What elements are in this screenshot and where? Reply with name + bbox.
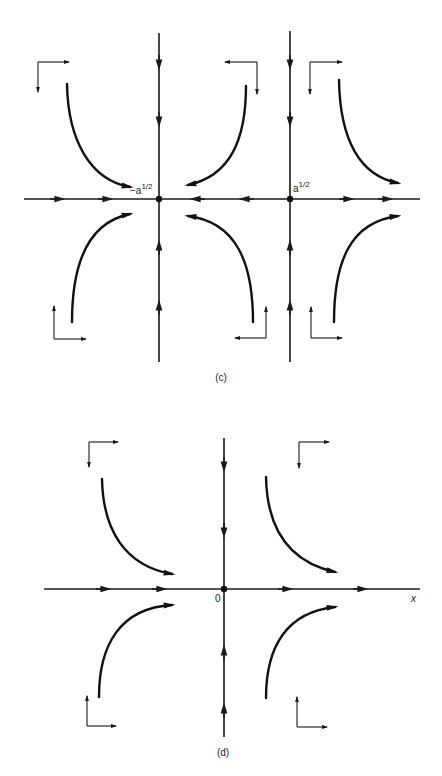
trajectory xyxy=(266,607,335,698)
direction-indicator xyxy=(297,697,327,727)
direction-indicator xyxy=(87,696,116,726)
trajectory xyxy=(188,216,253,322)
trajectory xyxy=(67,84,130,187)
fixed-point-origin xyxy=(221,586,227,592)
trajectory xyxy=(334,216,398,322)
label-neg-sqrt-a: −a1/2 xyxy=(130,182,153,196)
direction-indicator xyxy=(235,307,266,338)
trajectory xyxy=(266,477,335,572)
phase-portrait-figure: −a1/2 a1/2 xyxy=(0,0,442,776)
fixed-point-neg-sqrt-a xyxy=(156,196,162,202)
label-pos-sqrt-a: a1/2 xyxy=(293,180,310,194)
direction-indicator xyxy=(310,62,342,94)
direction-indicator xyxy=(54,306,86,339)
trajectory xyxy=(72,214,130,322)
label-origin: 0 xyxy=(215,593,221,604)
direction-indicator xyxy=(311,307,342,338)
trajectory xyxy=(188,86,246,185)
panel-c: −a1/2 a1/2 xyxy=(24,31,420,383)
fixed-point-pos-sqrt-a xyxy=(287,196,293,202)
trajectories-d xyxy=(99,477,335,698)
panel-d: 0 x (d) xyxy=(44,438,420,758)
panel-caption-d: (d) xyxy=(217,747,229,758)
x-axis-label: x xyxy=(410,593,417,604)
direction-indicator xyxy=(38,62,69,92)
trajectory xyxy=(339,80,398,183)
y-axis-flow-arrows-c xyxy=(159,55,290,315)
direction-indicator xyxy=(299,442,329,468)
direction-indicator xyxy=(225,62,257,94)
trajectory xyxy=(102,479,172,574)
trajectories-c xyxy=(67,80,398,322)
panel-caption-c: (c) xyxy=(215,372,227,383)
direction-indicator xyxy=(89,442,118,467)
trajectory xyxy=(99,605,172,697)
direction-indicators-c xyxy=(38,62,342,339)
direction-indicators-d xyxy=(87,442,329,727)
